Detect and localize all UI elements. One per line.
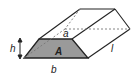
label-bottom-base: b [51, 64, 57, 75]
trapezoidal-prism-diagram: h A a b l [0, 0, 135, 78]
label-area: A [54, 46, 62, 57]
label-height: h [10, 43, 16, 54]
height-arrow-icon [18, 38, 22, 59]
label-length: l [111, 43, 114, 54]
label-top-base: a [63, 28, 69, 39]
